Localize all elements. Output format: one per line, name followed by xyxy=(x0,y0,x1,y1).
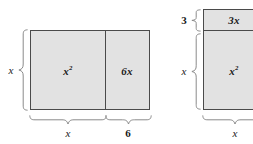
left-figure-height-label: x xyxy=(9,64,14,76)
left-figure-height-brace xyxy=(18,29,28,111)
left-figure-width-first-label: x xyxy=(66,127,71,139)
right-figure-width-brace xyxy=(202,115,253,125)
left-figure-width-first-brace xyxy=(29,115,107,125)
left-figure-label-x-squared-exponent: 2 xyxy=(69,64,73,71)
left-figure-width-second-brace xyxy=(105,115,152,125)
left-figure: x x2 6x x 6 xyxy=(0,0,170,144)
right-figure-height-bottom-label: x xyxy=(182,65,187,77)
right-figure-height-top-brace xyxy=(191,9,201,32)
diagram-canvas: x x2 6x x 6 3 xyxy=(0,0,253,144)
right-figure-height-bottom-brace xyxy=(191,33,201,110)
right-figure-label-x-squared: x2 xyxy=(229,65,238,77)
right-figure-cell-x-squared xyxy=(203,30,253,110)
right-figure-height-top-label: 3 xyxy=(181,14,187,26)
left-figure-label-x-squared: x2 xyxy=(63,65,72,77)
right-figure-label-x-squared-exponent: 2 xyxy=(235,64,239,71)
right-figure-width-label: x xyxy=(233,127,238,139)
left-figure-label-6x: 6x xyxy=(121,65,132,77)
left-figure-width-second-label: 6 xyxy=(125,127,131,139)
right-figure-label-3x: 3x xyxy=(228,14,239,26)
right-figure: 3 x 3x x2 x xyxy=(178,0,253,144)
